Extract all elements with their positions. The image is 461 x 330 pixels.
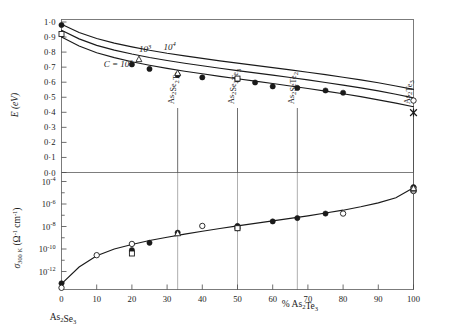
upper-data-point: [59, 32, 64, 37]
upper-data-point: [341, 90, 346, 95]
upper-data-point: [129, 62, 134, 67]
upper-y-tick-label: 0·5: [44, 92, 55, 102]
upper-data-point: [59, 22, 64, 27]
x-tick-label: 100: [407, 294, 420, 304]
upper-data-point: [235, 76, 240, 81]
upper-data-point: [323, 88, 328, 93]
upper-y-tick-label: 0·9: [44, 32, 55, 42]
lower-data-point: [295, 215, 300, 220]
upper-data-point: [253, 80, 258, 85]
lower-data-point: [94, 252, 99, 257]
chart-background: [0, 0, 461, 330]
x-tick-label: 60: [268, 294, 277, 304]
lower-data-point: [129, 241, 134, 246]
lower-data-point: [340, 211, 345, 216]
curve-label: C = 102: [104, 58, 134, 69]
upper-data-point: [295, 85, 300, 90]
upper-data-point: [200, 75, 205, 80]
lower-data-point: [200, 223, 205, 228]
upper-y-tick-label: 0·4: [44, 107, 56, 117]
x-tick-label: 90: [374, 294, 383, 304]
lower-data-point: [323, 211, 328, 216]
upper-y-tick-label: 0·6: [44, 77, 56, 87]
lower-data-point: [129, 251, 134, 256]
lower-data-point: [147, 240, 152, 245]
x-tick-label: 30: [163, 294, 172, 304]
upper-y-tick-label: 0·8: [44, 47, 55, 57]
lower-data-point: [235, 226, 240, 231]
upper-data-point: [270, 84, 275, 89]
upper-y-tick-label: 0·2: [44, 137, 55, 147]
x-tick-label: 10: [92, 294, 101, 304]
upper-data-point: [411, 98, 416, 103]
x-tick-label: 0: [59, 294, 63, 304]
upper-y-axis-label: E (eV): [10, 93, 21, 119]
upper-y-tick-label: 0·1: [44, 152, 55, 162]
lower-data-point: [270, 219, 275, 224]
lower-data-point: [59, 285, 64, 290]
composition-property-chart: 0·00·10·20·30·40·50·60·70·80·91·0 E (eV)…: [0, 0, 461, 330]
upper-data-point: [147, 66, 152, 71]
upper-y-tick-label: 0·3: [44, 122, 55, 132]
x-tick-label: 80: [339, 294, 348, 304]
x-tick-label: 50: [233, 294, 242, 304]
x-tick-label: 40: [198, 294, 207, 304]
upper-y-tick-label: 0·7: [44, 62, 56, 72]
x-tick-label: 20: [128, 294, 137, 304]
upper-y-tick-label: 1·0: [44, 17, 55, 27]
